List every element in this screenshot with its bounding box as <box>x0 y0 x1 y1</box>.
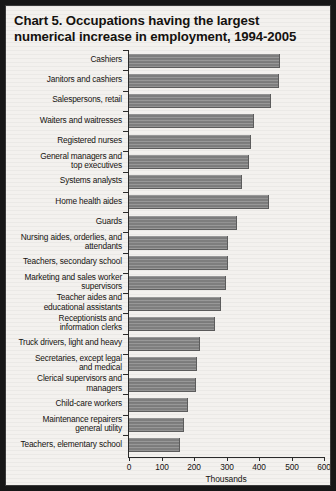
y-axis-tick <box>123 293 128 294</box>
y-axis-tick <box>123 354 128 355</box>
bar-category-label: Guards <box>5 217 122 226</box>
y-axis-tick <box>123 232 128 233</box>
bar-category-label: Maintenance repairersgeneral utility <box>5 415 122 434</box>
bar-category-label-line: top executives <box>5 161 122 170</box>
bar <box>129 216 237 230</box>
y-axis-tick <box>123 435 128 436</box>
bar <box>129 276 226 290</box>
y-axis-tick <box>123 374 128 375</box>
bar-category-label-line: attendants <box>5 242 122 251</box>
y-axis-tick <box>123 253 128 254</box>
bar-category-label: Teachers, secondary school <box>5 257 122 266</box>
bar <box>129 337 200 351</box>
bar <box>129 74 279 88</box>
bar-category-label-line: and medical <box>5 363 122 372</box>
bar <box>129 175 242 189</box>
bar <box>129 135 251 149</box>
bar-category-label: Truck drivers, light and heavy <box>5 338 122 347</box>
bar-category-label: Waiters and waitresses <box>5 116 122 125</box>
bar-category-label-line: Systems analysts <box>5 176 122 185</box>
bar-category-label-line: Home health aides <box>5 197 122 206</box>
bar <box>129 195 269 209</box>
bar-category-label-line: supervisors <box>5 282 122 291</box>
x-axis-tick <box>227 457 228 461</box>
bar-category-label: Teachers, elementary school <box>5 440 122 449</box>
bar <box>129 94 271 108</box>
y-axis-tick <box>123 192 128 193</box>
y-axis-line <box>128 50 129 457</box>
bar-category-label-line: information clerks <box>5 323 122 332</box>
bar-category-label: Registered nurses <box>5 136 122 145</box>
x-axis-tick <box>259 457 260 461</box>
bar-category-label: Cashiers <box>5 55 122 64</box>
bar-category-label: General managers andtop executives <box>5 152 122 171</box>
bar-category-label: Clerical supervisors andmanagers <box>5 374 122 393</box>
bar-category-label: Nursing aides, orderlies, andattendants <box>5 233 122 252</box>
bar <box>129 54 280 68</box>
bar-category-label-line: Salespersons, retail <box>5 95 122 104</box>
x-axis-tick <box>292 457 293 461</box>
x-axis-title: Thousands <box>128 474 324 484</box>
y-axis-tick <box>123 50 128 51</box>
page-title: Chart 5. Occupations having the largest … <box>14 13 326 44</box>
bar-category-label-line: general utility <box>5 424 122 433</box>
bar <box>129 357 197 371</box>
bar-category-label-line: Teachers, secondary school <box>5 257 122 266</box>
bar-category-label: Home health aides <box>5 197 122 206</box>
y-axis-tick <box>123 334 128 335</box>
bar <box>129 438 180 452</box>
bar-category-label-line: Janitors and cashiers <box>5 75 122 84</box>
x-axis-tick <box>162 457 163 461</box>
bar <box>129 297 221 311</box>
x-axis-tick <box>194 457 195 461</box>
x-axis-tick <box>129 457 130 461</box>
bar-category-label-line: Cashiers <box>5 55 122 64</box>
x-axis-tick <box>324 457 325 461</box>
bar <box>129 398 188 412</box>
bar <box>129 236 228 250</box>
bar-category-label: Child-care workers <box>5 399 122 408</box>
bar-category-label-line: Truck drivers, light and heavy <box>5 338 122 347</box>
bar-category-label: Janitors and cashiers <box>5 75 122 84</box>
bar-category-label: Receptionists andinformation clerks <box>5 314 122 333</box>
bar <box>129 155 249 169</box>
y-axis-tick <box>123 131 128 132</box>
bar-category-label: Systems analysts <box>5 176 122 185</box>
y-axis-tick <box>123 70 128 71</box>
bar <box>129 418 184 432</box>
bar <box>129 378 196 392</box>
bar-category-label-line: Guards <box>5 217 122 226</box>
y-axis-tick <box>123 394 128 395</box>
scan-background: Chart 5. Occupations having the largest … <box>0 0 336 491</box>
bar-category-label: Teacher aides andeducational assistants <box>5 293 122 312</box>
y-axis-tick <box>123 415 128 416</box>
bar-category-label: Secretaries, except legaland medical <box>5 354 122 373</box>
page-title-line-1: Chart 5. Occupations having the largest <box>14 13 326 29</box>
bar-chart-plot: CashiersJanitors and cashiersSalesperson… <box>6 48 331 486</box>
y-axis-tick <box>123 172 128 173</box>
bar <box>129 114 254 128</box>
bar-category-label-line: educational assistants <box>5 303 122 312</box>
bar-category-label-line: Waiters and waitresses <box>5 116 122 125</box>
bar <box>129 256 228 270</box>
y-axis-tick <box>123 313 128 314</box>
bar-category-label-line: managers <box>5 384 122 393</box>
chart-page: Chart 5. Occupations having the largest … <box>5 5 331 486</box>
y-axis-tick <box>123 111 128 112</box>
x-axis-line <box>128 457 324 458</box>
x-axis-tick-label: 600 <box>304 462 331 472</box>
page-title-line-2: numerical increase in employment, 1994-2… <box>14 29 326 45</box>
bar-category-label-line: Teachers, elementary school <box>5 440 122 449</box>
y-axis-tick <box>123 273 128 274</box>
bar-category-label: Marketing and sales workersupervisors <box>5 273 122 292</box>
y-axis-tick <box>123 91 128 92</box>
bar-category-label-line: Registered nurses <box>5 136 122 145</box>
bar-category-label-line: Child-care workers <box>5 399 122 408</box>
bar-category-label: Salespersons, retail <box>5 95 122 104</box>
y-axis-tick <box>123 212 128 213</box>
y-axis-tick <box>123 151 128 152</box>
bar <box>129 317 215 331</box>
